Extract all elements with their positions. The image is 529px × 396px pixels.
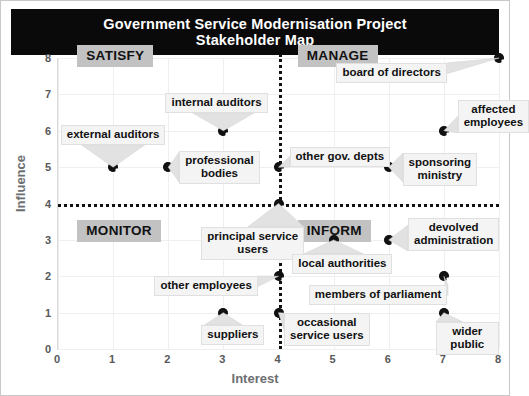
stakeholder-label: external auditors — [61, 125, 166, 145]
stakeholder-marker[interactable] — [109, 163, 118, 172]
y-axis-tick: 7 — [33, 88, 51, 100]
stakeholder-marker[interactable] — [495, 54, 504, 63]
quadrant-label-monitor: MONITOR — [77, 220, 161, 242]
stakeholder-label: internal auditors — [165, 93, 267, 113]
y-axis: 012345678 — [25, 58, 51, 349]
stakeholder-marker[interactable] — [329, 235, 338, 244]
x-axis-tick: 1 — [100, 353, 124, 365]
stakeholder-marker[interactable] — [274, 199, 283, 208]
stakeholder-marker[interactable] — [219, 126, 228, 135]
stakeholder-marker[interactable] — [219, 308, 228, 317]
stakeholder-label: suppliers — [201, 325, 264, 345]
y-axis-tick: 4 — [33, 198, 51, 210]
stakeholder-label: board of directors — [336, 63, 446, 83]
stakeholder-marker[interactable] — [164, 163, 173, 172]
stakeholder-marker[interactable] — [439, 308, 448, 317]
leader-line — [446, 58, 499, 74]
y-axis-tick: 1 — [33, 307, 51, 319]
x-axis-title: Interest — [1, 371, 509, 386]
plot-area: SATISFYMANAGEMONITORINFORMexternal audit… — [57, 58, 499, 350]
x-axis: 012345678 — [57, 353, 498, 369]
chart-title-line-2: Stakeholder Map — [196, 32, 314, 49]
x-axis-tick: 5 — [321, 353, 345, 365]
y-axis-tick: 5 — [33, 161, 51, 173]
stakeholder-marker[interactable] — [439, 272, 448, 281]
stakeholder-label: wider public — [436, 322, 499, 355]
x-axis-tick: 2 — [155, 353, 179, 365]
x-axis-tick: 7 — [431, 353, 455, 365]
stakeholder-label: affected employees — [458, 100, 529, 133]
stakeholder-marker[interactable] — [274, 308, 283, 317]
x-axis-tick: 3 — [210, 353, 234, 365]
y-axis-tick: 3 — [33, 234, 51, 246]
quadrant-label-satisfy: SATISFY — [77, 45, 153, 67]
gridline-horizontal — [58, 349, 499, 350]
stakeholder-label: local authorities — [292, 254, 392, 274]
stakeholder-marker[interactable] — [274, 163, 283, 172]
x-axis-tick: 6 — [376, 353, 400, 365]
stakeholder-label: devolved administration — [408, 218, 499, 251]
y-axis-tick: 2 — [33, 270, 51, 282]
y-axis-tick: 8 — [33, 52, 51, 64]
stakeholder-label: professional bodies — [179, 151, 259, 184]
x-axis-tick: 4 — [266, 353, 290, 365]
stakeholder-label: principal service users — [201, 227, 304, 260]
stakeholder-label: other gov. depts — [290, 147, 391, 167]
chart-title-line-1: Government Service Modernisation Project — [103, 16, 406, 33]
y-axis-tick: 6 — [33, 125, 51, 137]
stakeholder-label: other employees — [154, 276, 257, 296]
x-axis-tick: 8 — [486, 353, 510, 365]
stakeholder-label: members of parliament — [309, 285, 448, 305]
stakeholder-marker[interactable] — [384, 235, 393, 244]
stakeholder-marker[interactable] — [439, 126, 448, 135]
stakeholder-marker[interactable] — [274, 272, 283, 281]
x-axis-tick: 0 — [45, 353, 69, 365]
stakeholder-label: occasional service users — [284, 313, 370, 346]
y-axis-title: Influence — [13, 139, 28, 229]
stakeholder-label: sponsoring ministry — [403, 153, 478, 186]
